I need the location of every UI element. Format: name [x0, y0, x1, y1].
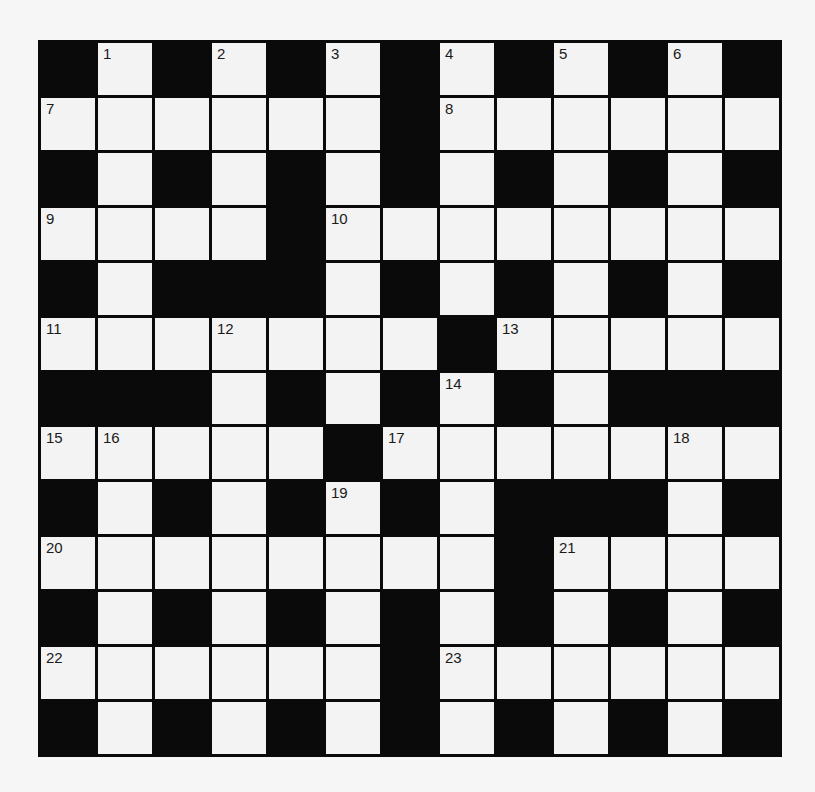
grid-cell[interactable]	[326, 647, 380, 699]
grid-cell[interactable]: 20	[41, 537, 95, 589]
grid-cell[interactable]	[725, 647, 779, 699]
grid-cell[interactable]	[269, 98, 323, 150]
grid-cell[interactable]	[98, 318, 152, 370]
grid-cell[interactable]	[611, 427, 665, 479]
grid-cell[interactable]: 16	[98, 427, 152, 479]
grid-cell[interactable]	[98, 263, 152, 315]
grid-cell[interactable]	[440, 537, 494, 589]
grid-cell[interactable]	[212, 153, 266, 205]
grid-cell[interactable]	[155, 208, 209, 260]
grid-cell[interactable]	[212, 98, 266, 150]
grid-cell[interactable]	[554, 592, 608, 644]
grid-cell[interactable]	[611, 318, 665, 370]
grid-cell[interactable]	[155, 427, 209, 479]
grid-cell[interactable]	[440, 702, 494, 754]
grid-cell[interactable]: 5	[554, 43, 608, 95]
grid-cell[interactable]	[497, 98, 551, 150]
grid-cell[interactable]: 13	[497, 318, 551, 370]
grid-cell[interactable]	[383, 318, 437, 370]
grid-cell[interactable]	[269, 647, 323, 699]
grid-cell[interactable]	[554, 318, 608, 370]
grid-cell[interactable]	[611, 647, 665, 699]
grid-cell[interactable]: 18	[668, 427, 722, 479]
grid-cell[interactable]	[98, 537, 152, 589]
grid-cell[interactable]	[668, 592, 722, 644]
grid-cell[interactable]: 10	[326, 208, 380, 260]
grid-cell[interactable]	[98, 592, 152, 644]
grid-cell[interactable]	[611, 208, 665, 260]
grid-cell[interactable]	[554, 427, 608, 479]
grid-cell[interactable]	[440, 263, 494, 315]
grid-cell[interactable]	[155, 98, 209, 150]
grid-cell[interactable]	[554, 647, 608, 699]
grid-cell[interactable]	[554, 263, 608, 315]
grid-cell[interactable]	[269, 537, 323, 589]
grid-cell[interactable]	[98, 647, 152, 699]
grid-cell[interactable]	[611, 98, 665, 150]
grid-cell[interactable]: 22	[41, 647, 95, 699]
grid-cell[interactable]	[212, 208, 266, 260]
grid-cell[interactable]	[212, 592, 266, 644]
grid-cell[interactable]	[668, 263, 722, 315]
grid-cell[interactable]	[155, 647, 209, 699]
grid-cell[interactable]: 15	[41, 427, 95, 479]
grid-cell[interactable]	[326, 318, 380, 370]
grid-cell[interactable]	[212, 702, 266, 754]
grid-cell[interactable]	[326, 373, 380, 425]
grid-cell[interactable]: 12	[212, 318, 266, 370]
grid-cell[interactable]	[440, 592, 494, 644]
grid-cell[interactable]	[554, 373, 608, 425]
grid-cell[interactable]: 1	[98, 43, 152, 95]
grid-cell[interactable]: 7	[41, 98, 95, 150]
grid-cell[interactable]	[668, 482, 722, 534]
grid-cell[interactable]	[269, 318, 323, 370]
grid-cell[interactable]	[725, 427, 779, 479]
grid-cell[interactable]	[98, 208, 152, 260]
grid-cell[interactable]	[668, 98, 722, 150]
grid-cell[interactable]	[212, 537, 266, 589]
grid-cell[interactable]	[98, 98, 152, 150]
grid-cell[interactable]: 3	[326, 43, 380, 95]
grid-cell[interactable]	[668, 318, 722, 370]
grid-cell[interactable]	[668, 647, 722, 699]
grid-cell[interactable]	[497, 647, 551, 699]
grid-cell[interactable]: 8	[440, 98, 494, 150]
grid-cell[interactable]	[326, 592, 380, 644]
grid-cell[interactable]	[269, 427, 323, 479]
grid-cell[interactable]	[212, 373, 266, 425]
grid-cell[interactable]: 17	[383, 427, 437, 479]
grid-cell[interactable]: 6	[668, 43, 722, 95]
grid-cell[interactable]	[326, 153, 380, 205]
grid-cell[interactable]: 21	[554, 537, 608, 589]
grid-cell[interactable]	[497, 427, 551, 479]
grid-cell[interactable]	[212, 647, 266, 699]
grid-cell[interactable]	[326, 98, 380, 150]
grid-cell[interactable]: 2	[212, 43, 266, 95]
grid-cell[interactable]: 9	[41, 208, 95, 260]
grid-cell[interactable]	[212, 482, 266, 534]
grid-cell[interactable]	[668, 537, 722, 589]
grid-cell[interactable]	[98, 482, 152, 534]
grid-cell[interactable]	[383, 208, 437, 260]
grid-cell[interactable]	[212, 427, 266, 479]
grid-cell[interactable]	[440, 208, 494, 260]
grid-cell[interactable]	[98, 153, 152, 205]
grid-cell[interactable]: 4	[440, 43, 494, 95]
grid-cell[interactable]	[554, 98, 608, 150]
grid-cell[interactable]	[725, 318, 779, 370]
grid-cell[interactable]	[326, 702, 380, 754]
grid-cell[interactable]	[725, 98, 779, 150]
grid-cell[interactable]	[155, 537, 209, 589]
grid-cell[interactable]	[668, 702, 722, 754]
grid-cell[interactable]	[98, 702, 152, 754]
grid-cell[interactable]	[668, 208, 722, 260]
grid-cell[interactable]: 11	[41, 318, 95, 370]
grid-cell[interactable]	[497, 208, 551, 260]
grid-cell[interactable]	[440, 153, 494, 205]
grid-cell[interactable]: 14	[440, 373, 494, 425]
grid-cell[interactable]: 19	[326, 482, 380, 534]
grid-cell[interactable]	[611, 537, 665, 589]
grid-cell[interactable]	[668, 153, 722, 205]
grid-cell[interactable]	[554, 702, 608, 754]
grid-cell[interactable]	[440, 482, 494, 534]
